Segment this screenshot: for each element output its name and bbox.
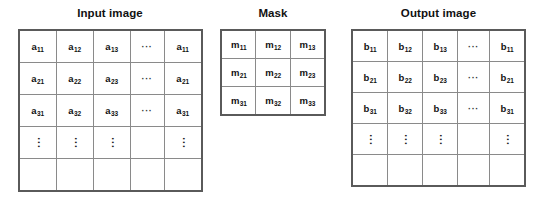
- grid-cell[interactable]: m13: [290, 31, 324, 59]
- grid-cell-ellipsis: ···: [130, 95, 164, 127]
- table-row: ··· ··· ··· ···: [353, 124, 525, 155]
- cell-value: ···: [69, 138, 81, 148]
- cell-subscript: 23: [111, 78, 118, 85]
- grid-cell[interactable]: b13: [423, 31, 458, 62]
- grid-cell[interactable]: b31: [353, 93, 388, 124]
- grid-cell[interactable]: b21: [353, 62, 388, 93]
- grid-cell[interactable]: m23: [290, 59, 324, 87]
- cell-value: a23: [105, 74, 117, 84]
- table-row: m31 m32 m33: [222, 87, 325, 115]
- cell-value: ···: [399, 135, 411, 145]
- grid-cell[interactable]: a11: [164, 31, 201, 63]
- grid-cell[interactable]: a31: [19, 95, 56, 127]
- mask-grid: m11 m12 m13 m21 m22 m23 m31 m32 m33: [221, 30, 325, 115]
- grid-cell[interactable]: a32: [56, 95, 93, 127]
- cell-subscript: 32: [405, 108, 412, 115]
- grid-cell[interactable]: m31: [222, 87, 256, 115]
- cell-value: ···: [468, 42, 479, 52]
- cell-value: m33: [300, 96, 315, 106]
- grid-cell[interactable]: a21: [19, 63, 56, 95]
- grid-cell-vertical-ellipsis: ···: [353, 124, 388, 155]
- grid-cell[interactable]: b11: [353, 31, 388, 62]
- cell-value: b22: [399, 73, 412, 83]
- output-image-grid: b11 b12 b13 ··· b11 b21 b22 b23 ··· b21 …: [352, 30, 525, 186]
- grid-cell[interactable]: a21: [164, 63, 201, 95]
- grid-cell[interactable]: b32: [388, 93, 423, 124]
- horizontal-ellipsis: ···: [468, 105, 479, 114]
- cell-value: ···: [142, 42, 153, 52]
- cell-value: a21: [176, 74, 188, 84]
- cell-subscript: 12: [405, 46, 412, 53]
- grid-cell-empty: [353, 155, 388, 186]
- cell-subscript: 13: [440, 46, 447, 53]
- table-row: b11 b12 b13 ··· b11: [353, 31, 525, 62]
- grid-cell-empty: [19, 159, 56, 191]
- cell-value: ···: [364, 135, 376, 145]
- grid-cell-empty: [93, 159, 130, 191]
- cell-subscript: 13: [111, 46, 118, 53]
- cell-subscript: 11: [37, 46, 44, 53]
- grid-cell[interactable]: m11: [222, 31, 256, 59]
- grid-cell[interactable]: b12: [388, 31, 423, 62]
- table-row: b31 b32 b33 ··· b31: [353, 93, 525, 124]
- grid-cell[interactable]: b21: [490, 62, 525, 93]
- grid-cell[interactable]: a13: [93, 31, 130, 63]
- table-row: [19, 159, 201, 191]
- grid-cell-vertical-ellipsis: ···: [93, 127, 130, 159]
- grid-cell[interactable]: m33: [290, 87, 324, 115]
- grid-cell[interactable]: b33: [423, 93, 458, 124]
- grid-cell-vertical-ellipsis: ···: [56, 127, 93, 159]
- horizontal-ellipsis: ···: [468, 74, 479, 83]
- cell-value: b31: [501, 104, 514, 114]
- cell-value: ···: [142, 74, 153, 84]
- grid-cell[interactable]: b31: [490, 93, 525, 124]
- grid-cell[interactable]: a11: [19, 31, 56, 63]
- grid-cell[interactable]: a33: [93, 95, 130, 127]
- vertical-ellipsis: ···: [33, 137, 43, 149]
- vertical-ellipsis: ···: [502, 134, 512, 146]
- cell-value: ···: [501, 135, 513, 145]
- cell-value: b12: [399, 42, 412, 52]
- horizontal-ellipsis: ···: [142, 75, 153, 84]
- grid-cell[interactable]: b11: [490, 31, 525, 62]
- vertical-ellipsis: ···: [400, 134, 410, 146]
- cell-value: m12: [265, 40, 280, 50]
- grid-cell-ellipsis: ···: [458, 31, 490, 62]
- grid-cell-empty: [490, 155, 525, 186]
- grid-cell[interactable]: m12: [256, 31, 290, 59]
- cell-value: a13: [105, 42, 117, 52]
- horizontal-ellipsis: ···: [142, 107, 153, 116]
- cell-value: b13: [434, 42, 447, 52]
- cell-subscript: 33: [440, 108, 447, 115]
- grid-cell-empty: [458, 124, 490, 155]
- grid-cell[interactable]: a12: [56, 31, 93, 63]
- cell-subscript: 12: [74, 46, 81, 53]
- grid-cell[interactable]: a31: [164, 95, 201, 127]
- horizontal-ellipsis: ···: [142, 43, 153, 52]
- table-row: b21 b22 b23 ··· b21: [353, 62, 525, 93]
- cell-value: b32: [399, 104, 412, 114]
- table-row: m21 m22 m23: [222, 59, 325, 87]
- cell-value: a31: [31, 106, 43, 116]
- cell-value: b11: [501, 42, 513, 52]
- grid-cell-highlighted[interactable]: b22: [388, 62, 423, 93]
- grid-cell[interactable]: m22: [256, 59, 290, 87]
- grid-cell[interactable]: m21: [222, 59, 256, 87]
- grid-cell-ellipsis: ···: [458, 62, 490, 93]
- cell-value: ···: [32, 138, 44, 148]
- cell-value: a11: [177, 42, 189, 52]
- cell-value: ···: [434, 135, 446, 145]
- grid-cell[interactable]: a22: [56, 63, 93, 95]
- grid-cell[interactable]: b23: [423, 62, 458, 93]
- grid-cell-vertical-ellipsis: ···: [388, 124, 423, 155]
- cell-subscript: 33: [308, 100, 315, 107]
- cell-value: m13: [300, 40, 315, 50]
- input-image-title: Input image: [0, 6, 220, 20]
- cell-subscript: 11: [182, 46, 189, 53]
- table-row: [353, 155, 525, 186]
- grid-cell[interactable]: m32: [256, 87, 290, 115]
- grid-cell-empty: [130, 159, 164, 191]
- cell-value: m32: [265, 96, 280, 106]
- cell-subscript: 32: [274, 100, 281, 107]
- grid-cell[interactable]: a23: [93, 63, 130, 95]
